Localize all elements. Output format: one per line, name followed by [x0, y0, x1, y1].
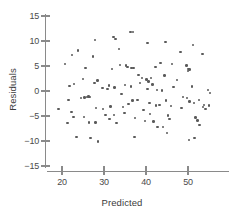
- data-point: [147, 80, 150, 83]
- data-point: [185, 64, 188, 67]
- data-point: [66, 122, 69, 125]
- data-point: [193, 137, 196, 140]
- data-point: [148, 102, 151, 105]
- data-point: [113, 86, 116, 89]
- x-axis-title: Predicted: [0, 197, 244, 208]
- data-point: [191, 85, 194, 88]
- data-point: [71, 54, 74, 57]
- data-point: [151, 83, 154, 86]
- data-point: [104, 114, 107, 117]
- data-point: [165, 99, 168, 102]
- data-point: [77, 49, 80, 52]
- residual-scatter-plot: 151050−5−10−15 20304050 Residuals Predic…: [0, 0, 244, 219]
- data-point: [150, 77, 153, 80]
- data-point: [146, 42, 149, 45]
- data-point: [159, 62, 162, 65]
- data-point: [155, 104, 158, 107]
- data-point: [139, 82, 142, 85]
- data-point: [142, 109, 145, 112]
- data-point: [102, 108, 105, 111]
- data-point: [208, 104, 211, 107]
- data-point: [170, 105, 173, 108]
- data-point: [96, 79, 99, 82]
- data-point: [137, 74, 140, 77]
- data-point: [130, 85, 133, 88]
- data-point: [97, 140, 100, 143]
- data-point: [94, 39, 97, 42]
- data-point: [131, 99, 134, 102]
- data-point: [119, 64, 122, 67]
- data-point: [73, 83, 76, 86]
- data-point: [188, 100, 191, 103]
- data-point: [109, 105, 112, 108]
- data-point: [124, 84, 127, 87]
- data-point: [113, 114, 116, 117]
- data-point: [88, 121, 91, 124]
- data-point: [168, 118, 171, 121]
- data-point: [132, 31, 135, 34]
- data-point: [163, 74, 166, 77]
- data-point: [126, 66, 129, 69]
- data-point: [196, 119, 199, 122]
- data-point: [144, 120, 147, 123]
- data-point: [172, 86, 175, 89]
- data-point: [111, 68, 114, 71]
- data-point: [88, 96, 91, 99]
- data-point: [201, 53, 204, 56]
- data-point: [193, 102, 196, 105]
- data-point: [154, 66, 157, 69]
- data-point: [82, 78, 85, 81]
- data-point: [156, 126, 159, 129]
- data-point: [122, 106, 125, 109]
- data-point: [167, 114, 170, 117]
- data-point: [67, 99, 70, 102]
- data-point: [141, 77, 144, 80]
- data-point: [152, 120, 155, 123]
- data-point: [198, 124, 201, 127]
- data-point: [198, 99, 201, 102]
- data-point: [94, 121, 97, 124]
- data-point: [89, 137, 92, 140]
- data-point: [209, 92, 212, 95]
- data-point: [207, 89, 210, 92]
- data-point: [80, 97, 83, 100]
- data-point: [156, 89, 159, 92]
- data-point: [114, 38, 117, 41]
- data-point: [176, 79, 179, 82]
- data-point: [132, 67, 135, 70]
- data-point: [72, 116, 75, 119]
- data-point: [101, 87, 104, 90]
- plot-area: [0, 0, 244, 219]
- data-point: [158, 104, 161, 107]
- data-point: [75, 136, 78, 139]
- data-point: [108, 84, 111, 87]
- data-point: [182, 96, 185, 99]
- data-point: [115, 122, 118, 125]
- data-point: [192, 44, 195, 47]
- data-point: [166, 132, 169, 135]
- data-point: [127, 103, 130, 106]
- data-point: [70, 111, 73, 114]
- data-point: [123, 112, 126, 115]
- data-point: [120, 93, 123, 96]
- data-point: [180, 107, 183, 110]
- data-point: [93, 82, 96, 85]
- data-point: [149, 113, 152, 116]
- data-point: [136, 99, 139, 102]
- data-point: [164, 41, 167, 44]
- data-point: [106, 88, 109, 91]
- data-point: [171, 63, 174, 66]
- data-point: [146, 88, 149, 91]
- data-point: [133, 136, 136, 139]
- data-point: [95, 107, 98, 110]
- data-point: [118, 48, 121, 51]
- data-point: [187, 70, 190, 73]
- data-point: [134, 117, 137, 120]
- data-point: [68, 85, 71, 88]
- data-point: [64, 63, 67, 66]
- data-point: [204, 108, 207, 111]
- y-axis-title: Residuals: [7, 54, 18, 126]
- data-point: [179, 51, 182, 54]
- data-point: [57, 108, 60, 111]
- data-point: [83, 116, 86, 119]
